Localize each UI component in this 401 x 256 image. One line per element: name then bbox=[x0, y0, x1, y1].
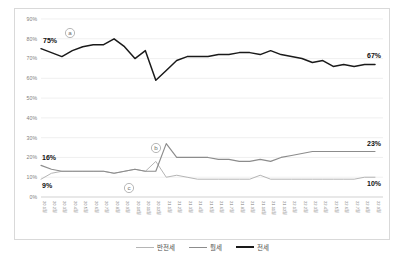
x-axis-tick-label: 21.4월 bbox=[198, 201, 204, 213]
x-axis-tick-label: 22.3월 bbox=[313, 201, 319, 213]
legend-item-banjeonse[interactable]: 반전세 bbox=[136, 242, 175, 252]
legend-swatch-banjeonse bbox=[136, 247, 154, 248]
legend-label-jeonse: 전세 bbox=[257, 242, 269, 252]
data-label-banjeonse-end: 10% bbox=[367, 180, 382, 187]
y-axis-tick-label: 60% bbox=[27, 75, 38, 81]
y-axis-tick-label: 10% bbox=[27, 174, 38, 180]
series-line-banjeonse bbox=[41, 161, 375, 179]
x-axis-tick-label: 22.8월 bbox=[365, 201, 371, 213]
x-axis-tick-label: 21.7월 bbox=[229, 201, 235, 213]
legend-swatch-jeonse bbox=[236, 246, 254, 248]
legend-label-banjeonse: 반전세 bbox=[157, 242, 175, 252]
y-axis-tick-label: 90% bbox=[27, 16, 38, 22]
x-axis-tick-label: 21.6월 bbox=[219, 201, 225, 213]
legend-label-wolse: 월세 bbox=[210, 242, 222, 252]
data-label-wolse-start: 16% bbox=[42, 154, 57, 161]
y-axis-tick-label: 50% bbox=[27, 95, 38, 101]
data-label-jeonse-start: 75% bbox=[43, 37, 58, 44]
y-axis-tick-label: 80% bbox=[27, 36, 38, 42]
x-axis-tick-label: 22.9월 bbox=[376, 201, 382, 213]
data-label-banjeonse-start: 9% bbox=[42, 182, 53, 189]
y-axis-tick-label: 20% bbox=[27, 154, 38, 160]
x-axis-tick-label: 20.8월 bbox=[115, 201, 121, 213]
chart-legend: 반전세 월세 전세 bbox=[14, 240, 390, 254]
x-axis-tick-label: 22.4월 bbox=[323, 201, 329, 213]
x-axis-tick-label: 22.2월 bbox=[303, 201, 309, 213]
x-axis-tick-label: 21.12월 bbox=[282, 201, 288, 215]
x-axis-tick-label: 21.9월 bbox=[250, 201, 256, 213]
chart-card: 90%80%70%60%50%40%30%20%10%0%20.1월20.2월2… bbox=[14, 8, 390, 240]
legend-swatch-wolse bbox=[189, 247, 207, 248]
annotation-label-b: b bbox=[154, 144, 158, 151]
x-axis-tick-label: 20.4월 bbox=[73, 201, 79, 213]
series-line-wolse bbox=[41, 144, 375, 174]
legend-item-jeonse[interactable]: 전세 bbox=[236, 242, 269, 252]
x-axis-tick-label: 20.6월 bbox=[94, 201, 100, 213]
x-axis-tick-label: 21.11월 bbox=[271, 201, 277, 215]
x-axis-tick-label: 21.8월 bbox=[240, 201, 246, 213]
x-axis-tick-label: 20.7월 bbox=[104, 201, 110, 213]
series-line-jeonse bbox=[41, 39, 375, 81]
legend-item-wolse[interactable]: 월세 bbox=[189, 242, 222, 252]
x-axis-tick-label: 22.7월 bbox=[355, 201, 361, 213]
x-axis-tick-label: 21.10월 bbox=[261, 201, 267, 215]
annotation-label-a: a bbox=[68, 29, 72, 36]
x-axis-tick-label: 21.2월 bbox=[177, 201, 183, 213]
x-axis-tick-label: 20.5월 bbox=[83, 201, 89, 213]
line-chart-plot: 90%80%70%60%50%40%30%20%10%0%20.1월20.2월2… bbox=[15, 9, 391, 241]
y-axis-tick-label: 30% bbox=[27, 135, 38, 141]
x-axis-tick-label: 20.3월 bbox=[62, 201, 68, 213]
annotation-label-c: c bbox=[127, 184, 130, 191]
x-axis-tick-label: 20.2월 bbox=[52, 201, 58, 213]
x-axis-tick-label: 22.6월 bbox=[344, 201, 350, 213]
x-axis-tick-label: 22.1월 bbox=[292, 201, 298, 213]
x-axis-tick-label: 20.11월 bbox=[146, 201, 152, 215]
y-axis-tick-label: 40% bbox=[27, 115, 38, 121]
x-axis-tick-label: 20.1월 bbox=[42, 201, 48, 213]
data-label-wolse-end: 23% bbox=[367, 140, 382, 147]
x-axis-tick-label: 22.5월 bbox=[334, 201, 340, 213]
data-label-jeonse-end: 67% bbox=[367, 52, 382, 59]
x-axis-tick-label: 20.9월 bbox=[125, 201, 131, 213]
x-axis-tick-label: 21.5월 bbox=[209, 201, 215, 213]
x-axis-tick-label: 20.10월 bbox=[136, 201, 142, 215]
y-axis-tick-label: 70% bbox=[27, 55, 38, 61]
x-axis-tick-label: 20.12월 bbox=[156, 201, 162, 215]
y-axis-tick-label: 0% bbox=[30, 194, 38, 200]
x-axis-tick-label: 21.3월 bbox=[188, 201, 194, 213]
x-axis-tick-label: 21.1월 bbox=[167, 201, 173, 213]
